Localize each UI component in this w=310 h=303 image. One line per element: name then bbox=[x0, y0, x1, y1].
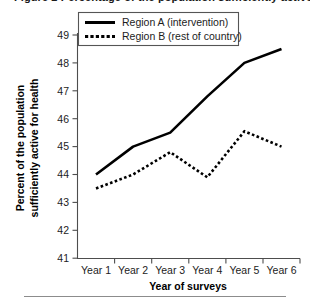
x-tick-label-year-6: Year 6 bbox=[267, 264, 297, 276]
x-tick-label-year-5: Year 5 bbox=[229, 264, 259, 276]
x-tick-label-year-1: Year 1 bbox=[81, 264, 111, 276]
line-chart-plot: 49 48 47 46 45 44 43 42 41 Percent of th… bbox=[0, 0, 310, 303]
x-tick-label-year-3: Year 3 bbox=[155, 264, 185, 276]
y-tick-label-47: 47 bbox=[57, 85, 69, 97]
y-axis: 49 48 47 46 45 44 43 42 41 Percent of th… bbox=[14, 29, 78, 264]
y-tick-label-48: 48 bbox=[57, 57, 69, 69]
chart-figure: Figure 2 Percentage of the population su… bbox=[0, 0, 310, 303]
legend-label-region-a: Region A (intervention) bbox=[122, 16, 228, 28]
y-tick-label-46: 46 bbox=[57, 113, 69, 125]
chart-legend: Region A (intervention) Region B (rest o… bbox=[79, 13, 242, 46]
x-axis-title: Year of surveys bbox=[149, 280, 227, 292]
bottom-divider bbox=[24, 296, 286, 297]
x-axis: Year 1 Year 2 Year 3 Year 4 Year 5 Year … bbox=[78, 259, 301, 293]
y-axis-title-line1: Percent of the population bbox=[14, 85, 26, 212]
data-series-group bbox=[96, 49, 282, 189]
series-line-region-b bbox=[96, 131, 282, 188]
y-tick-label-45: 45 bbox=[57, 140, 69, 152]
y-tick-label-44: 44 bbox=[57, 168, 69, 180]
legend-label-region-b: Region B (rest of country) bbox=[122, 30, 242, 42]
series-line-region-a bbox=[96, 49, 282, 175]
x-tick-label-year-4: Year 4 bbox=[192, 264, 222, 276]
y-axis-title-line2: sufficiently active for health bbox=[28, 79, 40, 218]
y-tick-label-42: 42 bbox=[57, 224, 69, 236]
x-tick-label-year-2: Year 2 bbox=[118, 264, 148, 276]
y-tick-label-43: 43 bbox=[57, 196, 69, 208]
y-tick-label-49: 49 bbox=[57, 29, 69, 41]
y-tick-label-41: 41 bbox=[57, 252, 69, 264]
